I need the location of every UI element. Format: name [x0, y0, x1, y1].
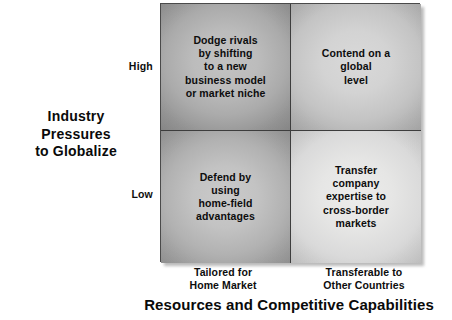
- quadrant-top-left-line-3: to a new: [185, 60, 266, 73]
- quadrant-top-left-line-2: by shifting: [185, 47, 266, 60]
- quadrant-bottom-right-line-5: markets: [323, 217, 389, 230]
- quadrant-bottom-left-text: Defend by using home-field advantages: [190, 171, 261, 224]
- quadrant-top-left-line-5: or market niche: [185, 87, 266, 100]
- quadrant-top-right-text: Contend on a global level: [316, 47, 396, 87]
- y-axis-tick-low: Low: [93, 188, 153, 200]
- quadrant-bottom-right-line-2: company: [323, 177, 389, 190]
- x-axis-tick-right: Transferable to Other Countries: [288, 266, 440, 292]
- quadrant-bottom-right-text: Transfer company expertise to cross-bord…: [317, 164, 395, 230]
- quadrant-bottom-right-line-4: cross-border: [323, 204, 389, 217]
- y-axis-tick-group: High Low: [85, 0, 153, 262]
- quadrant-top-right[interactable]: Contend on a global level: [291, 4, 421, 131]
- quadrant-top-right-line-2: global: [322, 60, 390, 73]
- quadrant-bottom-left-line-2: using: [196, 184, 255, 197]
- x-axis-tick-left-line-2: Home Market: [156, 279, 290, 292]
- matrix-container: Dodge rivals by shifting to a new busine…: [160, 3, 420, 262]
- quadrant-top-left-line-1: Dodge rivals: [185, 34, 266, 47]
- quadrant-bottom-left-line-3: home-field: [196, 197, 255, 210]
- x-axis-tick-left: Tailored for Home Market: [156, 266, 290, 292]
- quadrant-top-left-text: Dodge rivals by shifting to a new busine…: [179, 34, 272, 100]
- x-axis-tick-right-line-1: Transferable to: [288, 266, 440, 279]
- quadrant-bottom-right-line-1: Transfer: [323, 164, 389, 177]
- y-axis-tick-high: High: [93, 60, 153, 72]
- x-axis-tick-right-line-2: Other Countries: [288, 279, 440, 292]
- x-axis-tick-left-line-1: Tailored for: [156, 266, 290, 279]
- quadrant-top-right-line-3: level: [322, 74, 390, 87]
- quadrant-top-right-line-1: Contend on a: [322, 47, 390, 60]
- quadrant-bottom-left[interactable]: Defend by using home-field advantages: [161, 131, 291, 263]
- two-by-two-matrix: Dodge rivals by shifting to a new busine…: [160, 3, 420, 262]
- x-axis-title: Resources and Competitive Capabilities: [126, 296, 452, 313]
- quadrant-bottom-left-line-4: advantages: [196, 210, 255, 223]
- quadrant-bottom-left-line-1: Defend by: [196, 171, 255, 184]
- quadrant-top-left[interactable]: Dodge rivals by shifting to a new busine…: [161, 4, 291, 131]
- quadrant-top-left-line-4: business model: [185, 74, 266, 87]
- quadrant-bottom-right-line-3: expertise to: [323, 190, 389, 203]
- quadrant-bottom-right[interactable]: Transfer company expertise to cross-bord…: [291, 131, 421, 263]
